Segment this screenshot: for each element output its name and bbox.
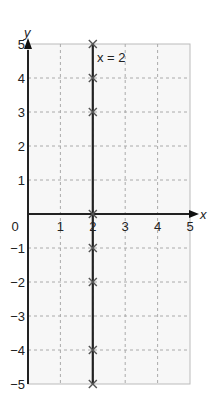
y-tick-label: 5 xyxy=(18,37,25,52)
x-tick-label: 5 xyxy=(186,219,193,234)
x-tick-label: 4 xyxy=(154,219,161,234)
x-axis-label: x xyxy=(199,207,207,222)
y-tick-labels: 54321−1−2−3−4−5 xyxy=(10,37,25,392)
x-tick-label: 1 xyxy=(57,219,64,234)
y-tick-label: −1 xyxy=(10,241,25,256)
x-tick-label: 3 xyxy=(122,219,129,234)
y-tick-label: −3 xyxy=(10,309,25,324)
y-tick-label: 4 xyxy=(18,71,25,86)
y-tick-label: 2 xyxy=(18,139,25,154)
y-tick-label: 3 xyxy=(18,105,25,120)
y-tick-label: −5 xyxy=(10,377,25,392)
y-tick-label: −4 xyxy=(10,343,25,358)
x-axis-arrow-icon xyxy=(189,210,199,218)
y-tick-label: −2 xyxy=(10,275,25,290)
x-tick-label: 0 xyxy=(11,219,18,234)
coordinate-plot: x y 012345 54321−1−2−3−4−5 x = 2 xyxy=(0,0,216,407)
line-annotation: x = 2 xyxy=(97,50,126,65)
y-tick-label: 1 xyxy=(18,173,25,188)
